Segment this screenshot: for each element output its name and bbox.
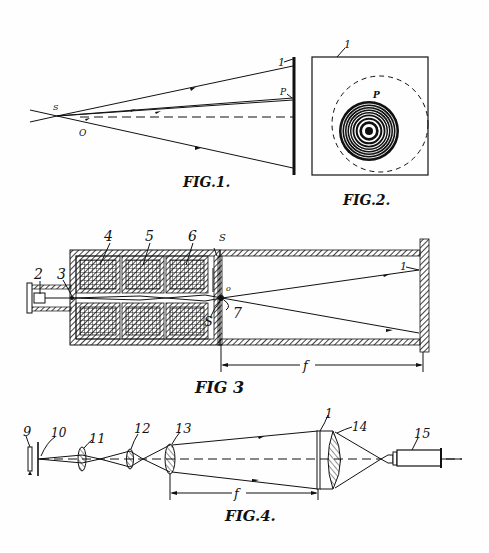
leader-line (224, 300, 229, 310)
label-origin: O (79, 128, 87, 138)
label-object: o (226, 284, 231, 293)
screen-flange (420, 239, 429, 352)
leader-line (287, 94, 292, 98)
interference-rings (339, 101, 399, 161)
leader-line (131, 434, 138, 449)
label-lens-13: 13 (175, 421, 192, 436)
label-screen: 1 (400, 260, 407, 273)
lens-13 (165, 444, 175, 474)
arrow-icon (311, 491, 318, 495)
lens-11 (78, 447, 86, 471)
cathode-tube-top (29, 285, 71, 289)
label-screen: 1 (344, 38, 351, 51)
label-coil-4: 4 (103, 228, 113, 244)
arrow-icon (155, 111, 161, 114)
eyepiece-collar (393, 452, 397, 465)
label-lens-14: 14 (352, 420, 367, 434)
figure-caption: FIG.2. (342, 192, 390, 208)
leader-line (284, 59, 293, 62)
figure-caption: FIG.1. (182, 174, 230, 190)
figure-caption: FIG.4. (224, 507, 276, 525)
figure-4: 9 10 11 12 13 1 (23, 407, 462, 525)
label-eyepiece: 15 (414, 426, 431, 441)
label-coil-5: 5 (145, 228, 154, 244)
arrow-icon (416, 363, 423, 367)
leader-line (337, 427, 352, 433)
ray-bottom (222, 298, 419, 333)
label-aperture: 3 (57, 266, 66, 282)
label-point: P (372, 90, 380, 100)
figure-caption: FIG 3 (194, 378, 244, 397)
incoming-ray-2 (30, 116, 57, 122)
figure-2: 1 P FIG.2. (312, 38, 428, 208)
label-point: P (279, 87, 287, 97)
figure-1: 1 P S O FIG.1. (30, 56, 294, 190)
label-pinhole: 10 (51, 426, 67, 440)
arrow-icon (221, 363, 228, 367)
label-specimen: 7 (233, 305, 242, 321)
cathode-cap (27, 283, 32, 313)
aperture (70, 296, 74, 300)
cathode (34, 293, 45, 303)
tube-bottom-wall (220, 339, 420, 345)
figure-3: 2 3 4 5 6 S S o 7 1 f FIG 3 (27, 228, 429, 397)
cathode-tube-bottom (29, 307, 71, 311)
label-screen: 1 (278, 56, 285, 69)
hologram-plate (317, 431, 320, 489)
label-lens-12: 12 (134, 421, 151, 436)
tube-top-wall (220, 250, 420, 256)
label-hologram: 1 (325, 407, 333, 421)
label-coil-6: 6 (188, 228, 197, 244)
arrow-icon (85, 118, 90, 121)
label-lens-11: 11 (89, 431, 106, 446)
ray-bottom (57, 116, 293, 168)
label-distance: f (233, 486, 241, 501)
patent-drawing-sheet: 1 P S O FIG.1. 1 P FIG.2. (0, 0, 489, 553)
label-distance: f (302, 358, 310, 373)
label-source: S (53, 103, 59, 112)
leader-line (406, 267, 419, 270)
drawing-canvas: 1 P S O FIG.1. 1 P FIG.2. (0, 0, 489, 553)
label-cathode: 2 (33, 266, 43, 282)
label-source-top: S (219, 232, 226, 243)
eyepiece-body (397, 450, 441, 466)
arrow-icon (386, 329, 393, 332)
lens-14 (328, 431, 341, 489)
lamp (28, 447, 32, 471)
ray-bottom (172, 472, 318, 489)
ray-top (172, 431, 318, 445)
eyepiece-tip (381, 455, 393, 463)
label-lamp: 9 (23, 424, 31, 439)
label-source-bottom: S (204, 314, 213, 329)
